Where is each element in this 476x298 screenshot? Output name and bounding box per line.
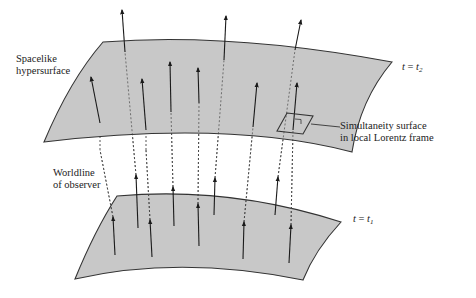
- label-worldline-of-observer: Worldline of observer: [53, 167, 101, 191]
- label-spacelike-hypersurface: Spacelike hypersurface: [16, 53, 70, 77]
- label-t-equals-t2: t = t2: [402, 61, 423, 76]
- label-line-2: of observer: [53, 179, 101, 191]
- subscript: 1: [370, 218, 374, 226]
- label-line-1: Worldline: [53, 167, 101, 179]
- label-simultaneity-surface: Simultaneity surface in local Lorentz fr…: [340, 120, 434, 144]
- subscript: 2: [419, 66, 423, 74]
- label-line-2: in local Lorentz frame: [340, 132, 434, 144]
- lower-hypersurface-t1: [75, 194, 341, 280]
- foliation-diagram: [0, 0, 476, 298]
- equals: =: [405, 61, 416, 72]
- normal-arrow: [295, 20, 301, 50]
- label-line-1: Simultaneity surface: [340, 120, 434, 132]
- label-line-2: hypersurface: [16, 65, 70, 77]
- lower-surface-shape: [75, 194, 341, 280]
- label-line-1: Spacelike: [16, 53, 70, 65]
- label-t-equals-t1: t = t1: [353, 213, 374, 228]
- equals: =: [356, 213, 367, 224]
